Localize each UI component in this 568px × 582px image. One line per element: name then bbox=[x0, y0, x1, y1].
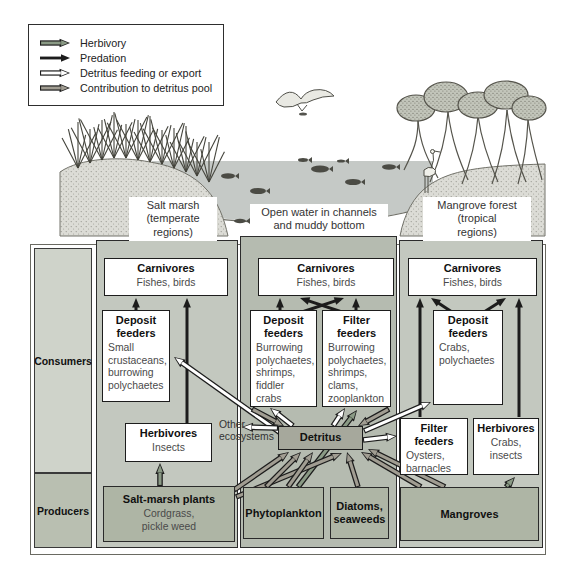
box-carnivores-mangrove: Carnivores Fishes, birds bbox=[408, 258, 537, 296]
box-title: Phytoplankton bbox=[245, 507, 321, 520]
box-title: Filter feeders bbox=[403, 422, 465, 448]
box-items: Insects bbox=[128, 442, 209, 455]
box-items: Burrowing polychaetes, shrimps, fiddler … bbox=[253, 342, 314, 405]
box-items: Small crustaceans, burrowing polychaetes bbox=[105, 342, 167, 393]
legend-label: Herbivory bbox=[80, 37, 126, 49]
box-herbivores-salt-marsh: Herbivores Insects bbox=[125, 423, 212, 462]
box-carnivores-salt-marsh: Carnivores Fishes, birds bbox=[104, 258, 228, 296]
box-phytoplankton: Phytoplankton bbox=[243, 487, 324, 539]
box-items: Cordgrass, pickle weed bbox=[106, 508, 232, 533]
box-title: Carnivores bbox=[107, 262, 225, 275]
legend-item-contribution: Contribution to detritus pool bbox=[37, 82, 215, 94]
box-title: Salt-marsh plants bbox=[106, 493, 232, 506]
box-mangroves: Mangroves bbox=[400, 487, 539, 541]
box-title: Filter feeders bbox=[325, 314, 388, 340]
habitat-label-mangrove: Mangrove forest (tropical regions) bbox=[423, 197, 531, 241]
box-title: Herbivores bbox=[476, 422, 536, 435]
box-deposit-feeders-open-water: Deposit feeders Burrowing polychaetes, s… bbox=[250, 310, 317, 407]
consumers-label: Consumers bbox=[34, 355, 92, 367]
figure-estuary-food-web: Herbivory Predation Detritus feeding or … bbox=[0, 0, 568, 582]
legend-label: Detritus feeding or export bbox=[80, 67, 201, 79]
box-title: Deposit feeders bbox=[105, 314, 167, 340]
legend-item-detritus-feeding: Detritus feeding or export bbox=[37, 67, 215, 79]
legend-label: Predation bbox=[80, 52, 126, 64]
box-items: Burrowing polychaetes, shrimps, clams, z… bbox=[325, 342, 388, 405]
box-title: Deposit feeders bbox=[436, 314, 500, 340]
box-deposit-feeders-salt-marsh: Deposit feeders Small crustaceans, burro… bbox=[102, 310, 170, 402]
box-filter-feeders-mangrove: Filter feeders Oysters, barnacles bbox=[400, 418, 468, 475]
box-title: Herbivores bbox=[128, 427, 209, 440]
box-diatoms-seaweeds: Diatoms, seaweeds bbox=[330, 487, 389, 539]
herbivory-arrow-icon bbox=[37, 37, 73, 49]
other-ecosystems-label: Other ecosystems bbox=[219, 419, 273, 444]
detritus-feeding-arrow-icon bbox=[37, 67, 73, 79]
legend-label: Contribution to detritus pool bbox=[80, 82, 212, 94]
habitat-label-salt-marsh: Salt marsh (temperate regions) bbox=[129, 197, 217, 241]
producers-label: Producers bbox=[37, 505, 89, 517]
box-title: Detritus bbox=[281, 431, 360, 444]
box-title: Diatoms, seaweeds bbox=[334, 500, 386, 526]
box-detritus: Detritus bbox=[278, 426, 363, 450]
box-items: Crabs, insects bbox=[476, 437, 536, 462]
predation-arrow-icon bbox=[37, 52, 73, 64]
box-items: Crabs, polychaetes bbox=[436, 342, 500, 367]
box-title: Carnivores bbox=[261, 262, 391, 275]
box-items: Fishes, birds bbox=[411, 277, 534, 290]
habitat-label-open-water: Open water in channels and muddy bottom bbox=[250, 204, 388, 235]
box-salt-marsh-plants: Salt-marsh plants Cordgrass, pickle weed bbox=[103, 486, 235, 542]
box-title: Carnivores bbox=[411, 262, 534, 275]
contribution-arrow-icon bbox=[37, 82, 73, 94]
legend: Herbivory Predation Detritus feeding or … bbox=[28, 24, 224, 106]
box-title: Deposit feeders bbox=[253, 314, 314, 340]
sidebar-consumers: Consumers bbox=[34, 248, 92, 473]
box-filter-feeders-open-water: Filter feeders Burrowing polychaetes, sh… bbox=[322, 310, 391, 407]
box-items: Oysters, barnacles bbox=[403, 450, 465, 475]
box-items: Fishes, birds bbox=[261, 277, 391, 290]
legend-item-herbivory: Herbivory bbox=[37, 37, 215, 49]
legend-item-predation: Predation bbox=[37, 52, 215, 64]
box-title: Mangroves bbox=[440, 508, 498, 521]
osprey-icon bbox=[276, 90, 334, 116]
box-herbivores-mangrove: Herbivores Crabs, insects bbox=[473, 418, 539, 475]
box-items: Fishes, birds bbox=[107, 277, 225, 290]
box-carnivores-open-water: Carnivores Fishes, birds bbox=[258, 258, 394, 296]
box-deposit-feeders-mangrove: Deposit feeders Crabs, polychaetes bbox=[433, 310, 503, 405]
sidebar-producers: Producers bbox=[34, 473, 92, 548]
